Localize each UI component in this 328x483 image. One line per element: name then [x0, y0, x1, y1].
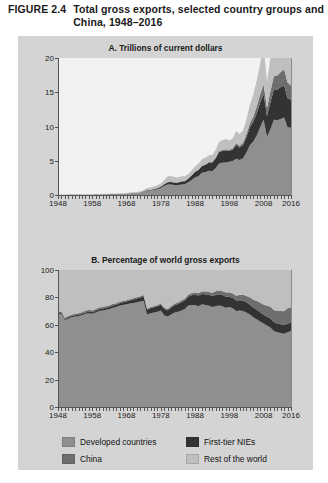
- swatch-china-icon: [62, 454, 75, 464]
- x-minor-tick: [89, 196, 90, 199]
- x-minor-tick: [175, 408, 176, 411]
- legend-label-china: China: [80, 454, 102, 464]
- x-minor-tick: [185, 408, 186, 411]
- x-minor-tick: [140, 408, 141, 411]
- x-minor-tick: [85, 196, 86, 199]
- legend-item-first-tier-nies: First-tier NIEs: [186, 434, 267, 449]
- x-minor-tick: [89, 408, 90, 411]
- y-tick-label: 100: [20, 266, 54, 275]
- y-tick-mark: [55, 297, 58, 298]
- x-minor-tick: [137, 408, 138, 411]
- x-minor-tick: [144, 196, 145, 199]
- x-minor-tick: [226, 408, 227, 411]
- chart-legend: Developed countries China First-tier NIE…: [18, 434, 313, 470]
- x-minor-tick: [284, 196, 285, 199]
- chart-b-axis-line-right: [291, 270, 292, 407]
- x-minor-tick: [151, 408, 152, 411]
- chart-a: 05101520 1948195819681978198819982008201…: [18, 54, 313, 214]
- legend-item-rest-of-world: Rest of the world: [186, 451, 267, 466]
- y-tick-mark: [55, 92, 58, 93]
- y-tick-mark: [55, 270, 58, 271]
- x-minor-tick: [195, 196, 196, 199]
- x-minor-tick: [157, 408, 158, 411]
- x-tick-label: 1978: [152, 199, 170, 208]
- x-minor-tick: [264, 196, 265, 199]
- x-minor-tick: [157, 196, 158, 199]
- x-minor-tick: [246, 408, 247, 411]
- x-minor-tick: [264, 408, 265, 411]
- x-minor-tick: [188, 196, 189, 199]
- chart-b: 020406080100 194819581968197819881998200…: [18, 266, 313, 426]
- chart-a-plot-area: [58, 58, 291, 195]
- x-minor-tick: [274, 408, 275, 411]
- x-minor-tick: [82, 408, 83, 411]
- y-tick-label: 15: [20, 88, 54, 97]
- x-minor-tick: [72, 408, 73, 411]
- figure-container: FIGURE 2.4 Total gross exports, selected…: [0, 0, 328, 483]
- x-minor-tick: [99, 408, 100, 411]
- x-minor-tick: [161, 196, 162, 199]
- x-minor-tick: [257, 196, 258, 199]
- x-minor-tick: [277, 196, 278, 199]
- x-minor-tick: [250, 408, 251, 411]
- x-minor-tick: [99, 196, 100, 199]
- x-minor-tick: [68, 196, 69, 199]
- x-tick-label: 1988: [186, 411, 204, 420]
- x-minor-tick: [168, 196, 169, 199]
- x-minor-tick: [240, 196, 241, 199]
- x-minor-tick: [233, 408, 234, 411]
- x-minor-tick: [229, 196, 230, 199]
- x-minor-tick: [75, 408, 76, 411]
- x-minor-tick: [58, 408, 59, 411]
- x-minor-tick: [171, 408, 172, 411]
- figure-label: FIGURE 2.4: [8, 3, 73, 15]
- x-minor-tick: [202, 408, 203, 411]
- x-minor-tick: [195, 408, 196, 411]
- x-minor-tick: [202, 196, 203, 199]
- x-minor-tick: [274, 196, 275, 199]
- chart-b-x-axis: 19481958196819781988199820082016: [18, 411, 313, 425]
- x-minor-tick: [216, 196, 217, 199]
- chart-a-y-axis: 05101520: [18, 58, 54, 195]
- x-minor-tick: [123, 408, 124, 411]
- x-tick-label: 1948: [49, 199, 67, 208]
- x-minor-tick: [198, 196, 199, 199]
- x-tick-label: 2008: [255, 411, 273, 420]
- x-minor-tick: [219, 408, 220, 411]
- swatch-first-tier-nies-icon: [186, 437, 199, 447]
- x-minor-tick: [222, 408, 223, 411]
- y-tick-label: 20: [20, 54, 54, 63]
- x-minor-tick: [178, 408, 179, 411]
- x-minor-tick: [92, 196, 93, 199]
- legend-label-developed: Developed countries: [80, 437, 156, 447]
- x-minor-tick: [253, 408, 254, 411]
- chart-a-x-axis: 19481958196819781988199820082016: [18, 199, 313, 213]
- x-minor-tick: [96, 196, 97, 199]
- x-minor-tick: [113, 196, 114, 199]
- x-minor-tick: [222, 196, 223, 199]
- y-tick-mark: [55, 380, 58, 381]
- x-tick-label: 1958: [83, 199, 101, 208]
- x-minor-tick: [103, 196, 104, 199]
- x-minor-tick: [72, 196, 73, 199]
- x-minor-tick: [103, 408, 104, 411]
- y-tick-label: 5: [20, 156, 54, 165]
- x-minor-tick: [130, 408, 131, 411]
- y-tick-mark: [55, 352, 58, 353]
- y-tick-label: 40: [20, 348, 54, 357]
- x-minor-tick: [161, 408, 162, 411]
- x-minor-tick: [61, 408, 62, 411]
- x-minor-tick: [267, 196, 268, 199]
- x-minor-tick: [205, 408, 206, 411]
- x-minor-tick: [209, 408, 210, 411]
- x-minor-tick: [147, 408, 148, 411]
- x-minor-tick: [133, 196, 134, 199]
- y-tick-label: 20: [20, 375, 54, 384]
- x-minor-tick: [116, 408, 117, 411]
- x-minor-tick: [79, 196, 80, 199]
- y-tick-label: 10: [20, 122, 54, 131]
- x-minor-tick: [164, 408, 165, 411]
- legend-column-right: First-tier NIEs Rest of the world: [186, 434, 267, 468]
- x-minor-tick: [164, 196, 165, 199]
- x-minor-tick: [168, 408, 169, 411]
